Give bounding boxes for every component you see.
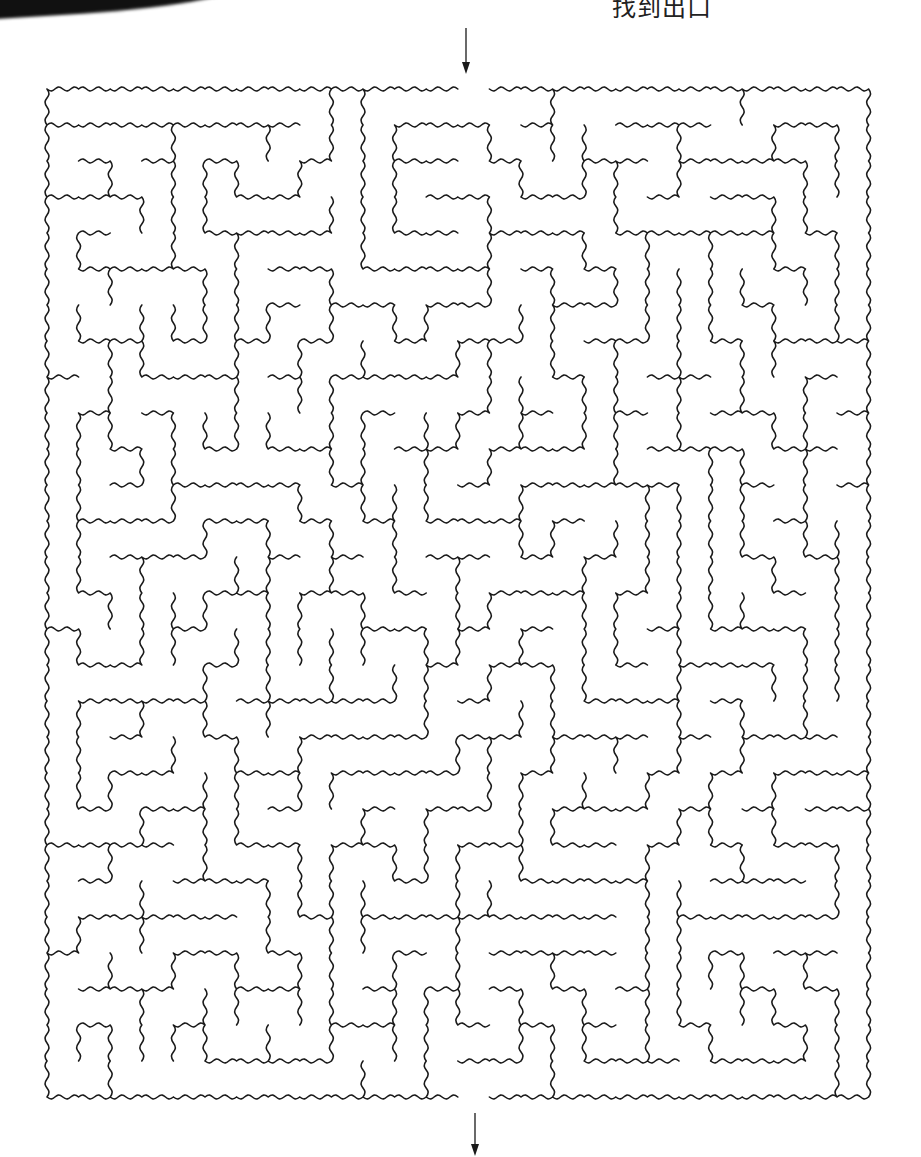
maze-walls [45,87,870,1099]
maze-wall-paths [45,87,870,1099]
exit-arrow-icon [471,1113,479,1156]
maze-puzzle[interactable] [0,0,921,1157]
entrance-arrow-icon [462,28,470,74]
